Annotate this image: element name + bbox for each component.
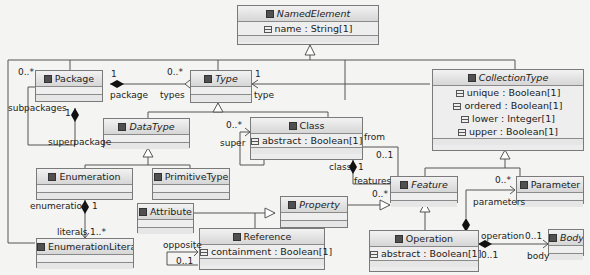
attribute: lower : Integer[1] [433, 112, 583, 125]
class-reference[interactable]: Reference containment : Boolean[1] [199, 228, 325, 270]
attribute-icon [264, 26, 272, 33]
mult-label: 1 [111, 69, 117, 79]
class-class[interactable]: Class abstract : Boolean[1] [250, 117, 363, 160]
mult-label: 0..1 [376, 150, 393, 160]
attribute: unique : Boolean[1] [433, 86, 583, 99]
attribute-icon [456, 90, 464, 97]
role-label: from [364, 132, 385, 142]
class-type[interactable]: Type [190, 70, 252, 103]
class-name: Class [300, 120, 325, 131]
class-icon [118, 123, 126, 131]
class-icon [468, 74, 476, 82]
class-collection-type[interactable]: CollectionType unique : Boolean[1] order… [432, 69, 584, 151]
class-feature[interactable]: Feature [390, 176, 458, 203]
class-package[interactable]: Package [35, 70, 103, 102]
class-icon [139, 208, 147, 216]
class-name: Feature [411, 179, 448, 190]
class-name: Type [215, 73, 237, 84]
attribute: name : String[1] [238, 22, 378, 35]
mult-label: 0..* [18, 67, 34, 77]
mult-label: 0..* [167, 67, 183, 77]
class-name: Operation [406, 233, 453, 244]
class-enumeration[interactable]: Enumeration [36, 168, 133, 200]
class-icon [204, 75, 212, 83]
class-icon [288, 201, 296, 209]
class-icon [233, 233, 241, 241]
class-named-element[interactable]: NamedElement name : String[1] [237, 5, 379, 45]
role-label: class [329, 162, 351, 172]
attribute-icon [251, 138, 259, 145]
class-name: CollectionType [479, 72, 548, 83]
class-name: Attribute [150, 206, 192, 217]
class-name: Property [299, 199, 340, 210]
class-name: NamedElement [277, 8, 350, 19]
class-icon [44, 75, 52, 83]
class-parameter[interactable]: Parameter [516, 176, 584, 204]
attribute-icon [453, 103, 461, 110]
attribute: abstract : Boolean[1] [370, 247, 478, 260]
class-icon [289, 122, 297, 130]
mult-label: 0..1 [481, 250, 498, 260]
class-icon [48, 173, 56, 181]
class-data-type[interactable]: DataType [103, 118, 190, 148]
mult-label: 0..1 [525, 231, 542, 241]
role-label: features [354, 176, 391, 186]
class-icon [37, 243, 45, 251]
role-label: superpackage [48, 137, 111, 147]
mult-label: 1 [358, 162, 364, 172]
class-icon [395, 235, 403, 243]
class-icon [549, 234, 557, 242]
class-body[interactable]: Body [548, 229, 584, 256]
class-name: Body [560, 232, 583, 243]
class-icon [266, 10, 274, 18]
role-label: opposite [163, 240, 202, 250]
mult-label: 1 [92, 201, 98, 211]
class-operation[interactable]: Operation abstract : Boolean[1] [369, 230, 479, 272]
attribute-icon [461, 116, 469, 123]
class-name: Reference [244, 231, 292, 242]
class-icon [400, 181, 408, 189]
mult-label: 1 [255, 69, 261, 79]
class-name: Parameter [531, 179, 580, 190]
mult-label: 0..* [495, 175, 511, 185]
mult-label: 1 [65, 108, 71, 118]
attribute-icon [458, 129, 466, 136]
class-attribute[interactable]: Attribute [137, 203, 194, 233]
class-name: DataType [129, 121, 174, 132]
attribute-icon [370, 251, 378, 258]
class-property[interactable]: Property [280, 196, 348, 228]
role-label: literals [57, 227, 87, 237]
mult-label: 1..* [90, 227, 106, 237]
attribute-icon [200, 249, 208, 256]
role-label: type [254, 90, 274, 100]
role-label: operation [481, 231, 524, 241]
class-icon [520, 181, 528, 189]
mult-label: 0..* [372, 189, 388, 199]
role-label: enumeration [30, 201, 88, 211]
class-name: PrimitiveType [165, 171, 229, 182]
class-icon [154, 173, 162, 181]
role-label: body [527, 251, 549, 261]
mult-label: 0..* [226, 120, 242, 130]
mult-label: 0..1 [176, 256, 193, 266]
role-label: super [220, 138, 245, 148]
role-label: subpackages [8, 103, 67, 113]
attribute: containment : Boolean[1] [200, 245, 324, 258]
attribute: ordered : Boolean[1] [433, 99, 583, 112]
class-name: Package [55, 73, 94, 84]
class-name: Enumeration [59, 171, 120, 182]
class-primitive-type[interactable]: PrimitiveType [152, 168, 230, 200]
attribute: abstract : Boolean[1] [251, 134, 362, 147]
attribute: upper : Boolean[1] [433, 125, 583, 138]
role-label: package [110, 90, 148, 100]
role-label: parameters [473, 197, 525, 207]
role-label: types [160, 90, 185, 100]
class-enumeration-literal[interactable]: EnumerationLiteral [36, 238, 134, 268]
class-name: EnumerationLiteral [48, 241, 133, 252]
